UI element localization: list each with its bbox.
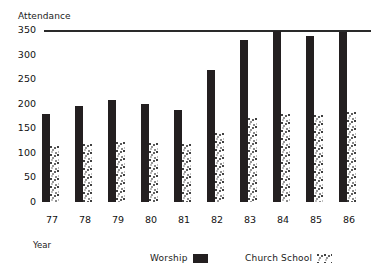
bar-worship-79	[108, 100, 116, 202]
x-tick-86: 86	[337, 214, 361, 225]
legend-swatch-worship-icon	[193, 254, 208, 263]
bar-group-83	[240, 30, 260, 202]
bar-worship-85	[306, 36, 314, 202]
bar-church-school-83	[248, 118, 257, 202]
bar-group-80	[141, 30, 161, 202]
x-tick-83: 83	[238, 214, 262, 225]
bar-group-77	[42, 30, 62, 202]
bar-church-school-81	[182, 144, 191, 202]
y-tick-250: 250	[10, 73, 36, 84]
bar-church-school-85	[314, 115, 323, 202]
bar-church-school-84	[281, 114, 290, 202]
y-tick-100: 100	[10, 147, 36, 158]
bar-group-85	[306, 30, 326, 202]
bar-group-82	[207, 30, 227, 202]
y-tick-0: 0	[10, 196, 36, 207]
bar-church-school-86	[347, 112, 356, 202]
bar-church-school-78	[83, 144, 92, 202]
y-tick-200: 200	[10, 98, 36, 109]
x-tick-82: 82	[205, 214, 229, 225]
bar-group-81	[174, 30, 194, 202]
bar-group-86	[339, 30, 359, 202]
plot-area	[42, 30, 372, 202]
y-axis-title: Attendance	[18, 11, 71, 21]
x-tick-79: 79	[106, 214, 130, 225]
x-tick-77: 77	[40, 214, 64, 225]
bar-worship-84	[273, 31, 281, 202]
bar-church-school-80	[149, 143, 158, 202]
bar-group-84	[273, 30, 293, 202]
bar-worship-82	[207, 70, 215, 202]
bar-worship-83	[240, 40, 248, 202]
x-axis-title: Year	[33, 240, 51, 250]
y-tick-50: 50	[10, 171, 36, 182]
legend-label-church-school: Church School	[245, 253, 312, 263]
bar-group-78	[75, 30, 95, 202]
bar-church-school-77	[50, 146, 59, 203]
x-tick-78: 78	[73, 214, 97, 225]
bar-church-school-82	[215, 133, 224, 202]
x-tick-85: 85	[304, 214, 328, 225]
legend-item-worship: Worship	[150, 253, 208, 263]
y-tick-300: 300	[10, 49, 36, 60]
bar-group-79	[108, 30, 128, 202]
bar-worship-86	[339, 32, 347, 202]
bar-worship-80	[141, 104, 149, 202]
attendance-bar-chart: Attendance 050100150200250300350 7778798…	[0, 0, 382, 277]
bar-worship-78	[75, 106, 83, 202]
bar-worship-81	[174, 110, 182, 202]
legend-item-church-school: Church School	[245, 253, 332, 263]
bar-church-school-79	[116, 142, 125, 202]
bar-worship-77	[42, 114, 50, 202]
x-tick-81: 81	[172, 214, 196, 225]
legend-swatch-church-school-icon	[317, 254, 332, 263]
legend-label-worship: Worship	[150, 253, 188, 263]
x-tick-84: 84	[271, 214, 295, 225]
y-tick-150: 150	[10, 122, 36, 133]
x-tick-80: 80	[139, 214, 163, 225]
y-tick-350: 350	[10, 24, 36, 35]
